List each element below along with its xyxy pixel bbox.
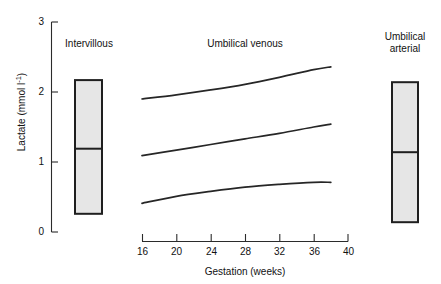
x-tick-label-40: 40 xyxy=(334,246,363,257)
y-tick-label-0: 0 xyxy=(28,226,44,237)
chart-figure: 3 2 1 0 Lactate (mmol l-1) 16 20 24 28 3… xyxy=(0,0,441,284)
y-axis-label: Lactate (mmol l-1) xyxy=(14,52,30,172)
y-axis-label-text: Lactate (mmol l-1) xyxy=(14,52,27,172)
curve-umbilical-venous-lower xyxy=(142,182,331,203)
y-axis xyxy=(52,22,59,232)
x-axis-label: Gestation (weeks) xyxy=(185,266,305,277)
curve-umbilical-venous-median xyxy=(142,124,331,156)
y-tick-label-2: 2 xyxy=(28,86,44,97)
umbilical-venous-curves xyxy=(142,67,331,204)
y-tick-label-3: 3 xyxy=(28,16,44,27)
curve-umbilical-venous-upper xyxy=(142,67,331,99)
y-tick-label-1: 1 xyxy=(28,156,44,167)
x-tick-label-16: 16 xyxy=(128,246,157,257)
y-axis-label-main: Lactate (mmol l xyxy=(16,83,27,151)
x-tick-label-36: 36 xyxy=(300,246,329,257)
y-axis-label-close: ) xyxy=(16,73,27,76)
box-umbilical-arterial xyxy=(392,82,418,222)
group-label-umbilical-arterial-line2: arterial xyxy=(373,43,437,55)
x-tick-label-28: 28 xyxy=(231,246,260,257)
x-tick-label-20: 20 xyxy=(162,246,191,257)
box-intervillous-rect xyxy=(75,80,102,214)
box-intervillous xyxy=(75,80,102,214)
x-tick-label-32: 32 xyxy=(265,246,294,257)
group-label-umbilical-venous: Umbilical venous xyxy=(190,38,300,50)
y-axis-label-exponent: -1 xyxy=(14,76,23,83)
group-label-intervillous: Intervillous xyxy=(50,38,128,50)
x-tick-label-24: 24 xyxy=(197,246,226,257)
group-label-umbilical-arterial-line1: Umbilical xyxy=(373,31,437,43)
x-axis xyxy=(142,234,348,242)
